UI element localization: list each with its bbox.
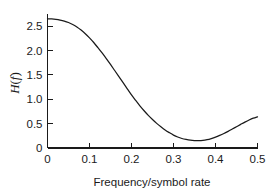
x-tick-label: 0 — [44, 153, 50, 165]
x-tick-label: 0.5 — [250, 153, 266, 165]
y-tick-label: 2.0 — [27, 45, 43, 57]
x-tick-label: 0.1 — [82, 153, 98, 165]
y-tick-label: 0 — [36, 142, 42, 154]
y-tick-label: 1.0 — [27, 93, 43, 105]
y-tick-label: 2.5 — [27, 20, 43, 32]
x-axis-title: Frequency/symbol rate — [94, 176, 211, 188]
y-axis-title-close-paren: ) — [7, 72, 22, 76]
x-tick-label: 0.2 — [124, 153, 140, 165]
x-axis-ticks: 00.10.20.30.40.5 — [44, 143, 265, 165]
data-curve-hf — [48, 19, 258, 141]
frequency-response-plot: 00.10.20.30.40.5 00.51.01.52.02.5 Freque… — [0, 0, 277, 193]
y-axis-title-symbol: H — [7, 84, 22, 95]
y-tick-label: 1.5 — [27, 69, 43, 81]
data-series-group — [48, 19, 258, 141]
y-axis-title: H(f) — [7, 72, 22, 95]
x-tick-label: 0.3 — [166, 153, 182, 165]
y-axis-ticks: 00.51.01.52.02.5 — [27, 20, 53, 154]
axes — [48, 14, 258, 148]
chart-figure: 00.10.20.30.40.5 00.51.01.52.02.5 Freque… — [0, 0, 277, 193]
y-tick-label: 0.5 — [27, 118, 43, 130]
y-axis-title-group: H(f) — [7, 72, 22, 95]
axis-titles: Frequency/symbol rate H(f) — [7, 72, 210, 188]
x-tick-label: 0.4 — [208, 153, 225, 165]
